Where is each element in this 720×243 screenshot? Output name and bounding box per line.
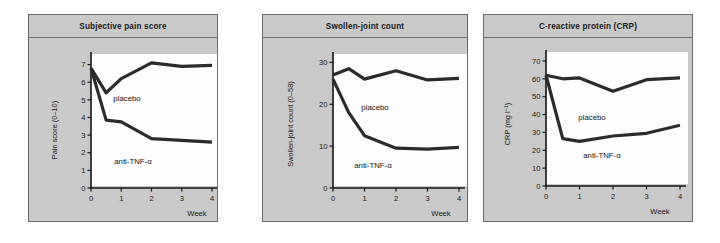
svg-text:0: 0	[331, 194, 335, 203]
svg-text:20: 20	[319, 100, 327, 109]
svg-text:anti-TNF-α: anti-TNF-α	[583, 151, 621, 160]
svg-text:30: 30	[319, 58, 327, 67]
svg-text:placebo: placebo	[361, 103, 389, 112]
svg-text:10: 10	[532, 164, 540, 173]
svg-text:60: 60	[532, 75, 540, 84]
svg-text:1: 1	[362, 194, 366, 203]
svg-text:20: 20	[532, 146, 540, 155]
panel-title-bar: Swollen-joint count	[263, 15, 467, 38]
svg-text:0: 0	[544, 192, 548, 201]
svg-text:anti-TNF-α: anti-TNF-α	[114, 157, 152, 166]
line-chart-swollen-joint-count: 010203001234Swollen-joint count (0–58)We…	[263, 38, 467, 222]
svg-text:5: 5	[81, 96, 85, 105]
svg-text:6: 6	[81, 78, 85, 87]
svg-text:Week: Week	[650, 207, 669, 216]
svg-text:1: 1	[577, 192, 581, 201]
svg-text:0: 0	[81, 184, 85, 193]
svg-text:4: 4	[457, 194, 461, 203]
panel-title-text: C-reactive protein (CRP)	[539, 22, 637, 31]
svg-text:4: 4	[81, 113, 85, 122]
svg-text:placebo: placebo	[113, 94, 141, 103]
svg-text:10: 10	[319, 142, 327, 151]
svg-text:2: 2	[611, 192, 615, 201]
svg-text:30: 30	[532, 128, 540, 137]
panel-plot-area: 01020304050607001234CRP (mg l−1)Weekplac…	[484, 38, 692, 222]
panel-title-bar: Subjective pain score	[29, 15, 217, 38]
svg-text:3: 3	[180, 194, 184, 203]
svg-text:4: 4	[210, 194, 214, 203]
chart-panel-crp: C-reactive protein (CRP) 010203040506070…	[483, 14, 693, 222]
svg-text:placebo: placebo	[578, 113, 606, 122]
svg-text:Pain score (0–10): Pain score (0–10)	[50, 101, 59, 159]
svg-text:50: 50	[532, 92, 540, 101]
line-chart-pain-score: 0123456701234Pain score (0–10)Weekplaceb…	[29, 38, 217, 222]
svg-text:anti-TNF-α: anti-TNF-α	[354, 161, 392, 170]
svg-text:Swollen-joint count (0–58): Swollen-joint count (0–58)	[286, 81, 295, 166]
svg-text:40: 40	[532, 110, 540, 119]
svg-text:2: 2	[149, 194, 153, 203]
svg-text:Week: Week	[431, 209, 450, 218]
svg-text:CRP (mg l−1): CRP (mg l−1)	[503, 103, 512, 146]
svg-text:70: 70	[532, 57, 540, 66]
svg-text:Week: Week	[187, 209, 206, 218]
panel-title-text: Swollen-joint count	[326, 22, 404, 31]
panel-plot-area: 010203001234Swollen-joint count (0–58)We…	[263, 38, 467, 222]
chart-panel-swollen-joint-count: Swollen-joint count 010203001234Swollen-…	[262, 14, 468, 222]
svg-text:3: 3	[644, 192, 648, 201]
panel-title-text: Subjective pain score	[79, 22, 166, 31]
svg-text:0: 0	[536, 182, 540, 191]
svg-text:0: 0	[89, 194, 93, 203]
svg-text:4: 4	[678, 192, 682, 201]
figure-panels: Subjective pain score 0123456701234Pain …	[0, 0, 720, 243]
svg-text:1: 1	[81, 166, 85, 175]
svg-text:2: 2	[81, 148, 85, 157]
line-chart-crp: 01020304050607001234CRP (mg l−1)Weekplac…	[484, 38, 692, 222]
panel-title-bar: C-reactive protein (CRP)	[484, 15, 692, 38]
svg-text:0: 0	[323, 184, 327, 193]
svg-text:3: 3	[425, 194, 429, 203]
svg-text:3: 3	[81, 131, 85, 140]
chart-panel-pain-score: Subjective pain score 0123456701234Pain …	[28, 14, 218, 222]
svg-text:1: 1	[119, 194, 123, 203]
svg-text:7: 7	[81, 60, 85, 69]
panel-plot-area: 0123456701234Pain score (0–10)Weekplaceb…	[29, 38, 217, 222]
svg-text:2: 2	[394, 194, 398, 203]
